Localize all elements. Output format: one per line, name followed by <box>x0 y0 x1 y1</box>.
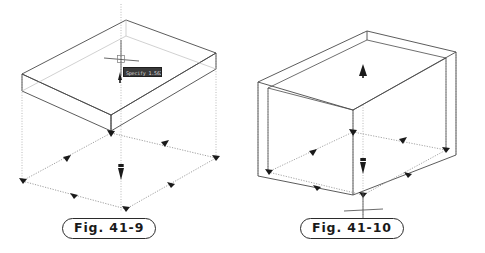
up-arrow-stem-icon <box>119 79 121 83</box>
grip-marker[interactable] <box>161 140 169 147</box>
grip-marker[interactable] <box>309 149 317 156</box>
grip-marker[interactable] <box>212 155 220 161</box>
grip-marker[interactable] <box>19 178 27 184</box>
down-arrow-grip[interactable] <box>360 158 366 174</box>
base-rectangle-outline <box>268 132 446 195</box>
top-slab <box>22 20 216 131</box>
base-rectangle <box>268 132 446 195</box>
down-arrow-grip[interactable] <box>118 164 124 180</box>
figure-41-10-drawing <box>243 0 485 253</box>
down-arrow-cap-icon <box>360 158 366 161</box>
grip-marker[interactable] <box>399 137 407 144</box>
down-arrow-cap-icon <box>118 164 123 167</box>
dynamic-input-tooltip: Specify 1.5625 <box>123 67 162 77</box>
illustration-canvas: Specify 1.5625 <box>0 0 485 253</box>
figure-41-10 <box>243 0 485 253</box>
grip-marker[interactable] <box>70 193 78 199</box>
grip-marker[interactable] <box>167 182 175 188</box>
grip-marker[interactable] <box>313 185 321 191</box>
figure-caption-41-9: Fig. 41-9 <box>62 218 156 239</box>
figure-caption-41-10: Fig. 41-10 <box>300 218 404 239</box>
shell-bottom-right <box>353 155 456 195</box>
crosshair-horizontal-icon <box>344 209 383 211</box>
down-arrow-head-icon <box>360 162 366 174</box>
grip-marker[interactable] <box>122 206 130 212</box>
figure-41-9-drawing <box>0 0 243 253</box>
box-shell-outer <box>258 31 456 195</box>
grip-marker[interactable] <box>107 130 115 137</box>
figure-41-9: Specify 1.5625 <box>0 0 243 253</box>
grip-marker[interactable] <box>442 147 450 153</box>
shell-bottom-left <box>258 176 353 195</box>
grip-marker[interactable] <box>265 169 273 175</box>
shell-top-rim-outer <box>258 31 456 110</box>
grip-markers-group <box>265 129 450 198</box>
down-arrow-head-icon <box>118 168 124 180</box>
up-arrow-stem-icon <box>362 74 364 78</box>
